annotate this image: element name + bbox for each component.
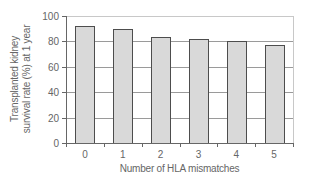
bar-1 [114,30,133,144]
x-tick-label: 3 [196,149,202,160]
x-tick-label: 2 [158,149,164,160]
chart-plot-area: 020406080100012345 [0,0,309,183]
y-axis-label: Transplanted kidney survival rate (%) at… [0,16,42,143]
x-tick-label: 0 [82,149,88,160]
y-tick-label: 60 [48,62,60,73]
bar-3 [190,40,209,144]
x-tick-label: 4 [233,149,239,160]
y-tick-label: 100 [42,11,59,22]
x-tick-label: 5 [271,149,277,160]
bar-0 [76,27,95,144]
bar-5 [266,46,285,144]
y-tick-label: 0 [53,138,59,149]
y-tick-label: 40 [48,87,60,98]
y-axis-label-line-2: survival rate (%) at 1 year [21,9,33,149]
bar-2 [152,38,171,144]
bar-chart: 020406080100012345 [0,0,309,183]
x-tick-label: 1 [120,149,126,160]
y-tick-label: 80 [48,36,60,47]
x-axis-label: Number of HLA mismatches [66,163,293,174]
bar-4 [228,42,247,144]
y-tick-label: 20 [48,113,60,124]
y-axis-label-line-1: Transplanted kidney [9,9,21,149]
